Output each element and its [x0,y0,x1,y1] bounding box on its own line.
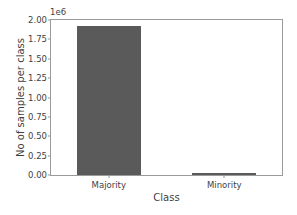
y-axis-tick-label: 0.75 [28,112,51,122]
y-axis-tick-label: 1.25 [28,73,51,83]
x-axis-title: Class [50,192,283,203]
y-axis-tick-label: 0.25 [28,151,51,161]
y-axis-tick-label: 0.50 [28,131,51,141]
y-axis-tick-label: 1.75 [28,34,51,44]
x-axis-tick-label-minority: Minority [207,175,242,190]
bar-majority [77,26,141,175]
x-axis-tick-label-majority: Majority [92,175,126,190]
y-axis-tick-label: 0.00 [28,170,51,180]
y-axis-tick-label: 1.00 [28,93,51,103]
y-axis-tick-label: 1.50 [28,54,51,64]
y-axis-exponent-label: 1e6 [50,7,66,17]
plot-area [51,20,282,175]
y-axis-tick-label: 2.00 [28,15,51,25]
figure-canvas: 1e6 No of samples per class 0.000.250.50… [0,0,297,215]
plot-axes: 0.000.250.500.751.001.251.501.752.00Majo… [50,19,283,176]
y-axis-title: No of samples per class [14,19,28,176]
